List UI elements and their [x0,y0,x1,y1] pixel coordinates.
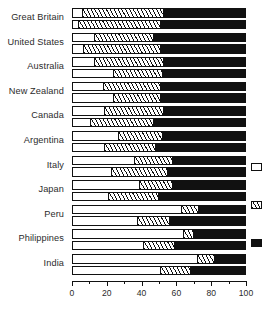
bar-segment-white [73,193,108,201]
bar-segment-white [73,255,197,263]
bar-segment-solid-black [193,230,246,238]
stacked-bar [72,167,246,177]
bar-segment-hatched [113,70,162,78]
axis-tick [72,281,73,286]
bar-segment-hatched [108,193,158,201]
bar-segment-white [73,144,104,152]
axis-tick [246,281,247,286]
axis-tick-label: 60 [172,288,182,298]
category-axis-labels: Great BritainUnited StatesAustraliaNew Z… [0,0,68,278]
bar-segment-solid-black [160,21,246,29]
bar-segment-white [73,70,113,78]
bar-segment-hatched [103,83,160,91]
stacked-bar [72,216,246,226]
bar-segment-white [73,9,82,17]
stacked-bar [72,44,246,54]
bar-segment-solid-black [162,132,246,140]
bar-segment-solid-black [198,206,246,214]
category-label: United States [8,38,64,47]
bar-segment-hatched [111,168,167,176]
stacked-bar [72,156,246,166]
axis-tick-label: 80 [206,288,216,298]
stacked-bar [72,118,246,128]
stacked-bar [72,180,246,190]
axis-tick-label: 0 [70,288,75,298]
bar-segment-solid-black [158,193,246,201]
bar-segment-hatched [139,181,172,189]
stacked-bar [72,33,246,43]
bar-segment-solid-black [169,217,246,225]
stacked-bar [72,254,246,264]
bar-segment-solid-black [153,119,246,127]
bar-segment-solid-black [214,255,246,263]
bar-segment-white [73,132,118,140]
legend-swatch-solid-black [251,239,262,247]
stacked-bar [72,192,246,202]
bar-segment-hatched [83,45,160,53]
bar-segment-white [73,267,160,275]
bar-segment-hatched [78,21,160,29]
axis-tick [142,281,143,286]
bar-segment-white [73,217,137,225]
bar-segment-hatched [137,217,168,225]
bar-segment-hatched [94,58,164,66]
stacked-bar [72,229,246,239]
category-label: Australia [27,62,64,71]
axis-tick-label: 40 [137,288,147,298]
category-label: Peru [44,210,64,219]
stacked-bar [72,266,246,276]
bar-segment-solid-black [160,94,246,102]
bar-segment-white [73,168,111,176]
category-label: Argentina [24,136,64,145]
value-axis: 020406080100 [72,281,246,311]
bar-segment-hatched [181,206,198,214]
bar-segment-solid-black [160,45,246,53]
bar-segment-solid-black [153,34,246,42]
axis-tick [211,281,212,286]
bar-segment-solid-black [163,58,246,66]
bar-segment-solid-black [162,70,246,78]
bar-segment-hatched [143,242,174,250]
bar-segment-solid-black [155,144,246,152]
axis-tick [107,281,108,286]
bar-segment-hatched [113,94,160,102]
axis-minor-tick [89,281,90,284]
legend-entry [251,163,262,171]
bar-segment-hatched [82,9,164,17]
bar-segment-solid-black [172,157,246,165]
plot-area [72,8,246,278]
axis-tick-label: 20 [102,288,112,298]
legend-swatch-white [251,163,262,171]
bar-segment-hatched [104,107,163,115]
bar-segment-hatched [197,255,214,263]
bar-segment-hatched [118,132,162,140]
stacked-bar [72,93,246,103]
bar-segment-hatched [134,157,172,165]
category-label: Canada [31,111,64,120]
bar-segment-white [73,230,183,238]
bar-segment-white [73,58,94,66]
category-label: Italy [47,161,64,170]
stacked-bar [72,69,246,79]
axis-tick-label: 100 [239,288,253,298]
stacked-bar-chart: Great BritainUnited StatesAustraliaNew Z… [0,0,263,311]
bar-segment-solid-black [174,242,246,250]
axis-minor-tick [159,281,160,284]
bar-segment-white [73,94,113,102]
bar-segment-white [73,157,134,165]
stacked-bar [72,131,246,141]
stacked-bar [72,143,246,153]
category-label: Great Britain [11,13,64,22]
stacked-bar [72,106,246,116]
bar-segment-white [73,83,103,91]
bar-segment-white [73,119,90,127]
bar-segment-solid-black [163,9,246,17]
bar-segment-white [73,107,104,115]
category-label: Japan [38,185,64,194]
stacked-bar [72,205,246,215]
bar-segment-solid-black [190,267,246,275]
legend-swatch-hatched [251,201,262,209]
legend-entry [251,239,262,247]
category-label: India [44,259,64,268]
bar-segment-hatched [183,230,193,238]
